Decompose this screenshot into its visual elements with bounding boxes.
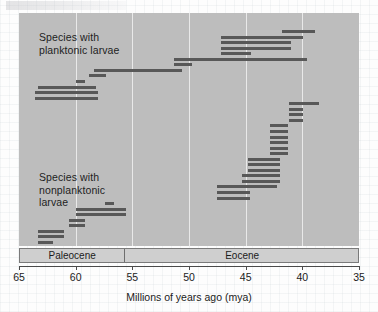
range-bar xyxy=(289,102,320,105)
range-bar xyxy=(35,91,99,94)
range-bar xyxy=(289,113,304,116)
gridline-50 xyxy=(189,13,190,246)
tick-45 xyxy=(246,266,247,270)
gridline-40 xyxy=(302,13,303,246)
tick-65 xyxy=(19,266,20,270)
range-bar xyxy=(248,158,280,161)
plot-area: Species with planktonic larvae Species w… xyxy=(19,13,359,246)
epoch-band: PaleoceneEocene xyxy=(19,248,359,263)
annotation-planktonic: Species with planktonic larvae xyxy=(39,31,120,56)
range-bar xyxy=(217,191,250,194)
tick-label-45: 45 xyxy=(231,271,261,283)
range-bar xyxy=(217,197,250,200)
range-bar xyxy=(69,224,85,227)
tick-35 xyxy=(359,266,360,270)
range-bar xyxy=(38,235,64,238)
range-bar xyxy=(38,241,53,244)
range-bar xyxy=(221,41,291,44)
range-bar xyxy=(174,58,307,61)
range-bar xyxy=(270,141,288,144)
range-bar xyxy=(69,219,85,222)
range-bar xyxy=(270,124,288,127)
page-header-artifact xyxy=(6,1,126,10)
range-bar xyxy=(282,30,315,33)
range-bar xyxy=(270,147,288,150)
range-bar xyxy=(270,130,288,133)
range-bar xyxy=(242,174,279,177)
tick-label-65: 65 xyxy=(4,271,34,283)
range-bar xyxy=(289,108,304,111)
epoch-paleocene: Paleocene xyxy=(20,249,124,262)
range-bar xyxy=(76,213,126,216)
range-bar xyxy=(221,47,291,50)
range-bar xyxy=(89,74,106,77)
chart-page: Species with planktonic larvae Species w… xyxy=(0,0,378,312)
epoch-separator xyxy=(124,249,125,262)
range-bar xyxy=(38,86,96,89)
gridline-55 xyxy=(132,13,133,246)
range-bar xyxy=(221,52,252,55)
tick-40 xyxy=(302,266,303,270)
range-bar xyxy=(38,230,64,233)
range-bar xyxy=(289,119,304,122)
range-bar xyxy=(248,163,280,166)
x-axis-label: Millions of years ago (mya) xyxy=(19,291,359,303)
tick-50 xyxy=(189,266,190,270)
tick-label-55: 55 xyxy=(117,271,147,283)
tick-label-60: 60 xyxy=(61,271,91,283)
epoch-eocene: Eocene xyxy=(124,249,360,262)
range-bar xyxy=(35,97,99,100)
range-bar xyxy=(217,185,277,188)
range-bar xyxy=(105,202,114,205)
range-bar xyxy=(76,80,85,83)
range-bar xyxy=(94,69,182,72)
tick-label-35: 35 xyxy=(344,271,374,283)
tick-60 xyxy=(76,266,77,270)
range-bar xyxy=(270,152,288,155)
tick-label-50: 50 xyxy=(174,271,204,283)
tick-55 xyxy=(132,266,133,270)
range-bar xyxy=(174,63,192,66)
annotation-nonplanktonic: Species with nonplanktonic larvae xyxy=(39,171,105,209)
range-bar xyxy=(242,180,279,183)
range-bar xyxy=(248,169,280,172)
range-bar xyxy=(270,136,288,139)
range-bar xyxy=(221,36,304,39)
tick-label-40: 40 xyxy=(287,271,317,283)
